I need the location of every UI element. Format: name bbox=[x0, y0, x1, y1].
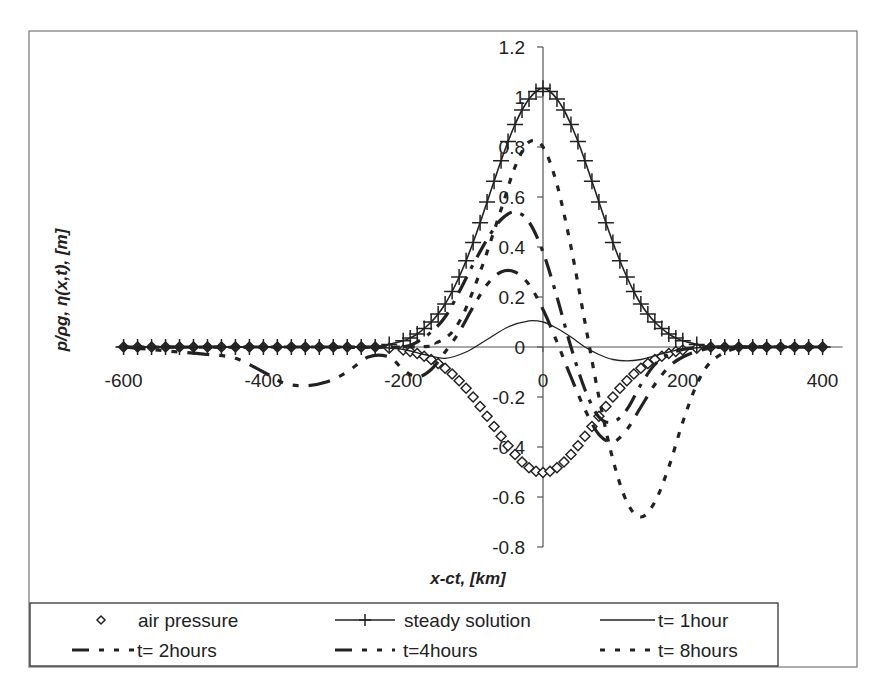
y-tick-label: -0.6 bbox=[492, 487, 525, 508]
x-tick-label: 200 bbox=[667, 370, 699, 391]
legend-label: t=4hours bbox=[403, 640, 477, 661]
x-tick-label: -200 bbox=[384, 370, 422, 391]
y-tick-label: 1.2 bbox=[499, 37, 525, 58]
y-tick-label: 0.2 bbox=[499, 287, 525, 308]
y-tick-label: 0 bbox=[514, 337, 525, 358]
legend: air pressuresteady solutiont= 1hourt= 2h… bbox=[30, 603, 778, 666]
legend-label: t= 8hours bbox=[658, 640, 738, 661]
legend-label: t= 1hour bbox=[658, 610, 729, 631]
x-tick-label: -600 bbox=[105, 370, 143, 391]
y-tick-label: 1 bbox=[514, 87, 525, 108]
legend-label: steady solution bbox=[404, 610, 531, 631]
legend-label: t= 2hours bbox=[137, 640, 217, 661]
y-tick-label: 0.6 bbox=[499, 187, 525, 208]
y-axis-title: p/ρg, η(x,t), [m] bbox=[52, 227, 71, 352]
y-tick-label: -0.2 bbox=[492, 387, 525, 408]
x-tick-label: 0 bbox=[538, 370, 549, 391]
y-tick-label: 0.4 bbox=[499, 237, 526, 258]
x-tick-label: 400 bbox=[807, 370, 839, 391]
x-axis-title: x-ct, [km] bbox=[429, 569, 507, 588]
legend-label: air pressure bbox=[138, 610, 238, 631]
y-tick-label: -0.8 bbox=[492, 537, 525, 558]
chart: -0.8-0.6-0.4-0.200.20.40.60.811.2-600-40… bbox=[0, 0, 885, 698]
